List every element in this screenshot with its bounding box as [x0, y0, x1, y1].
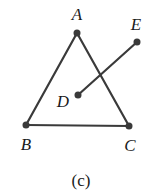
label-a: A — [71, 5, 83, 24]
figure-caption: (c) — [72, 171, 91, 190]
point-b — [23, 122, 30, 129]
segment-ab — [26, 33, 77, 125]
label-b: B — [21, 135, 32, 154]
point-a — [74, 30, 81, 37]
segment-bc — [26, 125, 129, 126]
point-e — [134, 39, 141, 46]
segment-ac — [77, 33, 129, 126]
label-e: E — [130, 15, 142, 34]
geometry-figure: A B C D E (c) — [0, 0, 164, 195]
label-d: D — [56, 92, 70, 111]
label-c: C — [124, 136, 136, 155]
point-d — [75, 92, 82, 99]
point-c — [126, 123, 133, 130]
